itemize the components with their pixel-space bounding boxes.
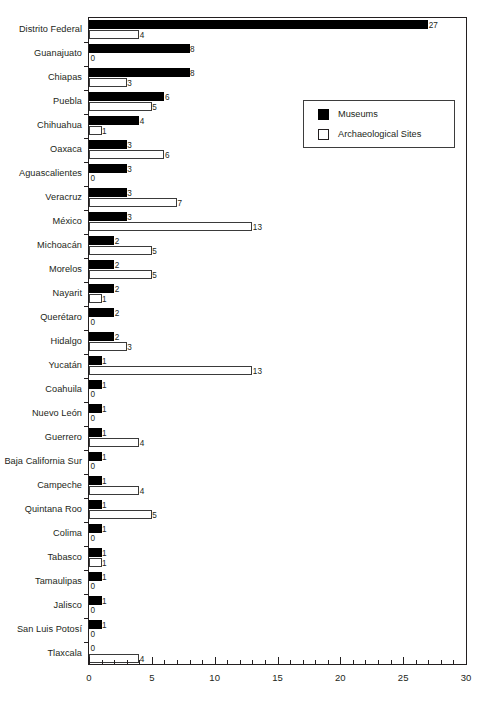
bar-value-label: 1 [102, 559, 107, 568]
category-label: Veracruz [0, 192, 85, 202]
bar-group: 23 [89, 330, 466, 354]
category-label: Distrito Federal [0, 24, 85, 34]
bar-value-label: 4 [140, 439, 145, 448]
bar-museums: 1 [89, 620, 102, 629]
bar-value-label: 4 [140, 655, 145, 664]
x-axis-minor-tick [353, 660, 354, 664]
bar-group: 10 [89, 618, 466, 642]
bar-sites: 7 [89, 198, 177, 207]
x-axis-major-tick [215, 657, 216, 664]
bar-group: 14 [89, 426, 466, 450]
bar-museums: 1 [89, 500, 102, 509]
category-label: San Luis Potosí [0, 624, 85, 634]
x-axis-tick-label: 0 [86, 672, 91, 683]
bar-value-label: 5 [152, 511, 157, 520]
bar-sites: 3 [89, 342, 127, 351]
bar-value-label: 1 [102, 405, 107, 414]
bar-value-label: 8 [190, 45, 195, 54]
x-axis-tick-label: 10 [209, 672, 220, 683]
bar-museums: 1 [89, 428, 102, 437]
legend-swatch-filled-square-icon [318, 109, 329, 120]
bar-chart: Distrito FederalGuanajuatoChiapasPueblaC… [0, 0, 483, 703]
category-label: Tamaulipas [0, 576, 85, 586]
bar-museums: 2 [89, 308, 114, 317]
bar-value-label: 5 [152, 271, 157, 280]
category-label: Querétaro [0, 312, 85, 322]
bar-group: 14 [89, 474, 466, 498]
bar-group: 10 [89, 594, 466, 618]
category-label: Jalisco [0, 600, 85, 610]
bar-museums: 2 [89, 284, 114, 293]
category-label: Chiapas [0, 72, 85, 82]
bar-value-label: 0 [91, 582, 96, 591]
x-axis-minor-tick [177, 660, 178, 664]
x-axis-minor-tick [252, 660, 253, 664]
x-axis-minor-tick [139, 660, 140, 664]
x-axis-minor-tick [453, 660, 454, 664]
legend-swatch-hollow-square-icon [318, 129, 329, 140]
bar-value-label: 27 [429, 21, 438, 30]
x-axis-minor-tick [240, 660, 241, 664]
bar-value-label: 0 [91, 318, 96, 327]
bar-value-label: 1 [102, 429, 107, 438]
bar-museums: 3 [89, 164, 127, 173]
bar-sites: 1 [89, 126, 102, 135]
bar-value-label: 4 [140, 31, 145, 40]
x-axis-major-tick [340, 657, 341, 664]
x-axis-tick-label: 5 [149, 672, 154, 683]
bar-museums: 1 [89, 452, 102, 461]
bar-sites: 13 [89, 366, 252, 375]
bar-group: 37 [89, 186, 466, 210]
bar-sites: 5 [89, 510, 152, 519]
x-axis-minor-tick [441, 660, 442, 664]
x-axis-minor-tick [416, 660, 417, 664]
bar-value-label: 0 [91, 174, 96, 183]
bar-value-label: 2 [115, 333, 120, 342]
category-label: Chihuahua [0, 120, 85, 130]
bar-museums: 8 [89, 44, 190, 53]
x-axis-minor-tick [328, 660, 329, 664]
bar-value-label: 8 [190, 69, 195, 78]
bar-sites: 4 [89, 438, 139, 447]
bar-value-label: 2 [115, 309, 120, 318]
x-axis-tick-label: 20 [335, 672, 346, 683]
legend-item-archaeological-sites: Archaeological Sites [318, 127, 421, 141]
bar-value-label: 0 [91, 534, 96, 543]
bar-value-label: 1 [102, 501, 107, 510]
x-axis-minor-tick [428, 660, 429, 664]
bar-value-label: 13 [253, 367, 262, 376]
bar-value-label: 1 [102, 127, 107, 136]
x-axis-minor-tick [265, 660, 266, 664]
bar-value-label: 4 [140, 487, 145, 496]
bar-value-label: 5 [152, 247, 157, 256]
bar-value-label: 4 [140, 117, 145, 126]
bar-value-label: 2 [115, 285, 120, 294]
x-axis-tick-label: 15 [272, 672, 283, 683]
bar-sites: 1 [89, 294, 102, 303]
bar-sites: 5 [89, 246, 152, 255]
bar-value-label: 1 [102, 453, 107, 462]
category-label: Tlaxcala [0, 648, 85, 658]
x-axis-minor-tick [303, 660, 304, 664]
legend-item-museums: Museums [318, 107, 378, 121]
bar-value-label: 6 [165, 151, 170, 160]
category-label: México [0, 216, 85, 226]
x-axis-minor-tick [315, 660, 316, 664]
category-label: Coahuila [0, 384, 85, 394]
bar-value-label: 5 [152, 103, 157, 112]
bar-group: 10 [89, 402, 466, 426]
bar-group: 313 [89, 210, 466, 234]
bar-museums: 1 [89, 356, 102, 365]
bar-group: 10 [89, 378, 466, 402]
bar-value-label: 7 [177, 199, 182, 208]
bar-museums: 1 [89, 596, 102, 605]
bar-museums: 1 [89, 524, 102, 533]
bar-value-label: 1 [102, 357, 107, 366]
bar-museums: 4 [89, 116, 139, 125]
bar-value-label: 0 [91, 644, 96, 653]
bar-value-label: 0 [91, 606, 96, 615]
bar-museums: 8 [89, 68, 190, 77]
category-label: Guanajuato [0, 48, 85, 58]
legend-label-museums: Museums [338, 109, 378, 120]
bar-value-label: 3 [127, 141, 132, 150]
